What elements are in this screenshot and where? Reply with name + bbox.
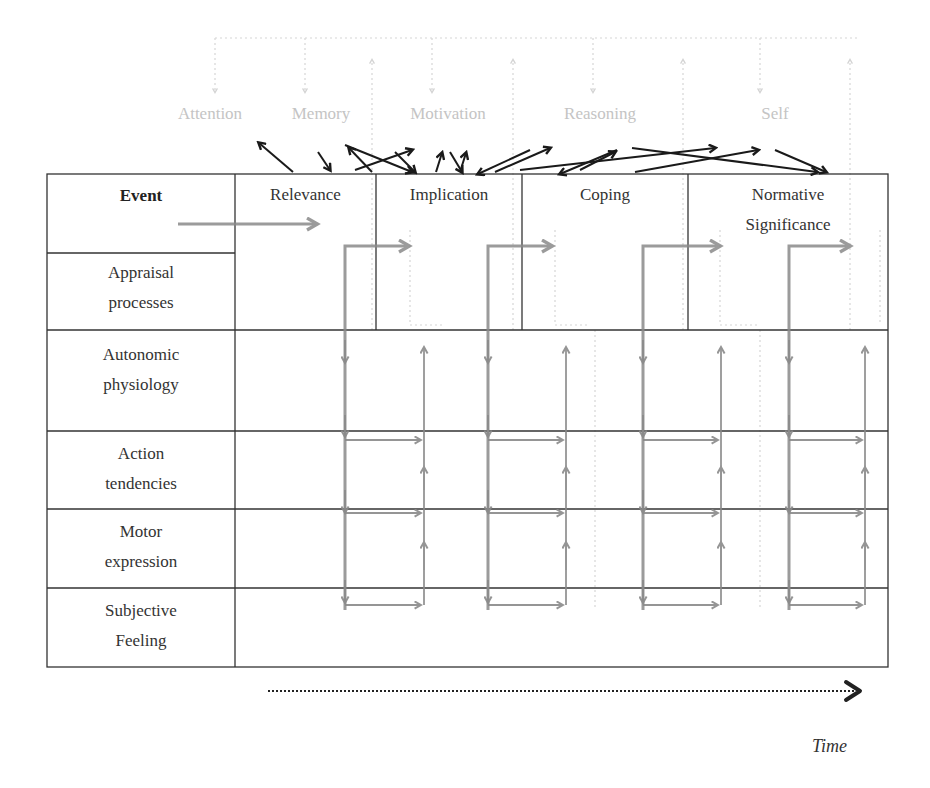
row-label-subjective-line2: Feeling	[47, 626, 235, 656]
table-grid	[47, 174, 888, 667]
cognitive-label-memory: Memory	[276, 104, 366, 124]
stage-normative-significance: Normative Significance	[688, 180, 888, 240]
row-label-action-line1: Action	[47, 439, 235, 469]
row-label-autonomic-line2: physiology	[47, 370, 235, 400]
row-label-motor-line1: Motor	[47, 517, 235, 547]
row-label-action: Action tendencies	[47, 439, 235, 499]
cognitive-label-attention: Attention	[165, 104, 255, 124]
row-label-event: Event	[47, 181, 235, 211]
row-label-motor: Motor expression	[47, 517, 235, 577]
row-label-action-line2: tendencies	[47, 469, 235, 499]
time-axis-label: Time	[812, 736, 847, 757]
appraisal-flow-arrows	[178, 224, 849, 610]
row-label-motor-line2: expression	[47, 547, 235, 577]
row-label-appraisal-line2: processes	[47, 288, 235, 318]
stage-normative-line1: Normative	[688, 180, 888, 210]
component-arrows	[345, 340, 865, 605]
stage-coping: Coping	[522, 180, 688, 210]
row-label-subjective-line1: Subjective	[47, 596, 235, 626]
stage-implication: Implication	[376, 180, 522, 210]
row-label-autonomic: Autonomic physiology	[47, 340, 235, 400]
cognitive-label-self: Self	[735, 104, 815, 124]
row-label-subjective: Subjective Feeling	[47, 596, 235, 656]
row-label-autonomic-line1: Autonomic	[47, 340, 235, 370]
stage-normative-line2: Significance	[688, 210, 888, 240]
stage-relevance: Relevance	[235, 180, 376, 210]
time-axis	[268, 682, 860, 700]
cognitive-label-reasoning: Reasoning	[545, 104, 655, 124]
row-label-appraisal: Appraisal processes	[47, 258, 235, 318]
row-label-appraisal-line1: Appraisal	[47, 258, 235, 288]
cognitive-label-motivation: Motivation	[393, 104, 503, 124]
cognitive-interaction-arrows	[259, 143, 826, 174]
